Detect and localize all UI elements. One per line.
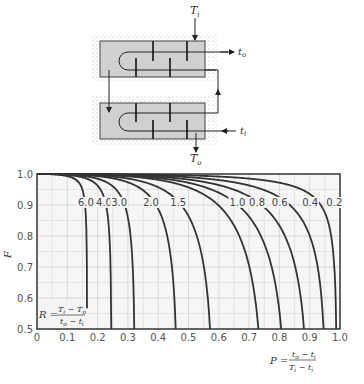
x-tick-label: 0.7	[241, 332, 257, 343]
x-tick-label: 0.5	[181, 332, 197, 343]
x-tick-label: 0.2	[90, 332, 106, 343]
svg-text:to − ti: to − ti	[292, 350, 316, 360]
x-tick-label: 1.0	[332, 332, 348, 343]
svg-text:to: to	[238, 46, 246, 59]
curve-label: 2.0	[143, 197, 159, 208]
curve-label: 0.8	[249, 197, 265, 208]
curve-label: 0.4	[302, 197, 318, 208]
heat-exchanger-diagram: Ti To to ti	[0, 0, 364, 165]
x-tick-label: 0.6	[211, 332, 227, 343]
y-tick-label: 0.7	[17, 262, 33, 273]
x-tick-label: 0.1	[59, 332, 75, 343]
curve-label: 1.5	[170, 197, 186, 208]
svg-text:ti: ti	[240, 125, 246, 138]
correction-factor-chart: 00.10.20.30.40.50.60.70.80.91.0 0.50.60.…	[0, 160, 364, 384]
y-tick-label: 1.0	[17, 169, 33, 180]
p-formula-annotation: P = to − ti Ti − ti	[269, 350, 316, 373]
svg-text:Ti: Ti	[190, 4, 200, 19]
x-tick-label: 0.4	[150, 332, 166, 343]
svg-text:Ti − ti: Ti − ti	[289, 363, 313, 373]
x-tick-label: 0.9	[302, 332, 318, 343]
svg-text:R =: R =	[38, 309, 58, 320]
curve-label: 4.0	[96, 197, 112, 208]
x-tick-label: 0.3	[120, 332, 136, 343]
curve-label: 0.6	[272, 197, 288, 208]
x-tick-label: 0	[34, 332, 40, 343]
y-tick-label: 0.9	[17, 200, 33, 211]
y-tick-label: 0.8	[17, 231, 33, 242]
y-axis-label: F	[2, 250, 13, 259]
curve-label: 6.0	[78, 197, 94, 208]
y-tick-label: 0.5	[17, 324, 33, 335]
x-axis-ticks: 00.10.20.30.40.50.60.70.80.91.0	[34, 332, 348, 343]
svg-text:P =: P =	[269, 355, 288, 366]
x-tick-label: 0.8	[271, 332, 287, 343]
y-axis-ticks: 0.50.60.70.80.91.0	[17, 169, 33, 335]
curve-label: 1.0	[229, 197, 245, 208]
svg-text:Ti − To: Ti − To	[58, 305, 86, 315]
curve-label: 3.0	[111, 197, 127, 208]
y-tick-label: 0.6	[17, 293, 33, 304]
r-formula-annotation: R = Ti − To to − ti	[38, 300, 86, 328]
curve-label: 0.2	[326, 197, 342, 208]
